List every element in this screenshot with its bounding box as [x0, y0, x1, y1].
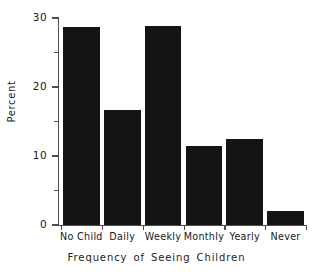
y-axis-tick-minor [54, 190, 59, 191]
bar [63, 27, 100, 225]
bar [186, 146, 223, 225]
x-axis-tick [184, 226, 185, 230]
y-axis-tick-label: 20 [7, 80, 47, 92]
x-axis-tick [224, 226, 225, 230]
x-axis-line [58, 225, 307, 226]
y-axis-tick-minor [54, 52, 59, 53]
bar [267, 211, 304, 225]
bar [145, 26, 182, 225]
y-axis-tick-major [52, 155, 59, 156]
y-axis-tick-major [52, 224, 59, 225]
y-axis-tick-label: 30 [7, 11, 47, 23]
y-axis-tick-label: 10 [7, 149, 47, 161]
x-axis-tick [61, 226, 62, 230]
x-axis-tick [143, 226, 144, 230]
bar [104, 110, 141, 225]
x-axis-tick-label: Never [257, 231, 313, 242]
y-axis-title: Percent [6, 67, 17, 137]
x-axis-tick [265, 226, 266, 230]
y-axis-tick-major [52, 86, 59, 87]
y-axis-tick-major [52, 17, 59, 18]
x-axis-tick [102, 226, 103, 230]
x-axis-tick [306, 226, 307, 230]
bar-chart-figure: Percent 0102030 No ChildDailyWeeklyMonth… [0, 0, 313, 277]
bar [226, 139, 263, 225]
y-axis-tick-label: 0 [7, 218, 47, 230]
y-axis-tick-minor [54, 121, 59, 122]
plot-area [61, 18, 306, 225]
x-axis-title: Frequency of Seeing Children [0, 252, 313, 263]
